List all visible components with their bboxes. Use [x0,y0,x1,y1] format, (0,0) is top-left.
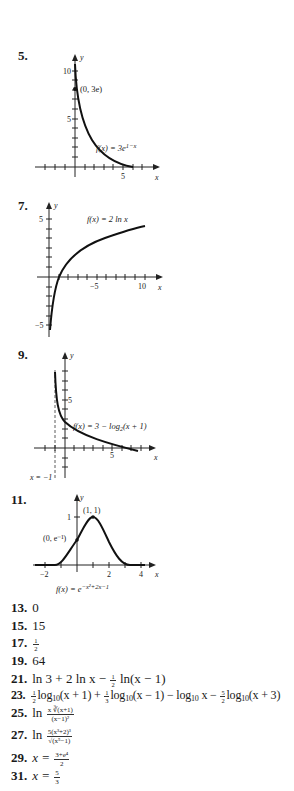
answer-number: 23. [11,688,25,702]
answer-text: ln 3 + 2 ln x − [32,671,109,686]
x-tick-label: 2 [107,570,111,579]
fraction: x ∛(x+1)(x−1)² [47,706,74,723]
answer-25: 25.ln x ∛(x+1)(x−1)² [11,705,75,723]
x-axis-label: x [157,283,162,292]
fraction: 5(x³+2)³√(x⁵−1) [47,728,72,745]
y-tick-label: 5 [68,396,72,405]
y-tick-label: −5 [35,321,44,330]
function-label: f(x) = 3 − log2(x + 1) [73,421,147,432]
fraction: 12 [33,637,38,652]
x-tick-label: −5 [90,282,99,291]
answer-27: 27.ln 5(x³+2)³√(x⁵−1) [11,727,73,745]
graph-exponential-decay: 10 5 5 x y (0, 3e) f(x) = 3e1−x [30,52,165,182]
answer-number: 29. [11,750,27,765]
answer-text: x = [32,768,50,783]
answer-number: 31. [11,768,27,783]
x-tick-label: 5 [121,172,125,181]
x-axis-label: x [154,173,159,182]
graph-log-base-2: 5 5 x y x = −1 f(x) = 3 − log2(x + 1) [30,350,170,485]
answer-text: ln [32,705,42,720]
answer-number: 25. [11,705,27,720]
answer-23: 23.12log10(x + 1) + 13log10(x − 1) − log… [11,688,280,704]
y-axis-label: y [69,351,74,360]
y-axis-label: y [53,201,58,210]
fraction: 53 [54,769,60,786]
answer-text: ln(x − 1) [117,671,166,686]
point-label: (0, 3e) [80,84,102,94]
answer-21: 21.ln 3 + 2 ln x − 12 ln(x − 1) [11,671,166,688]
fraction: 12 [110,673,115,688]
fraction: 13 [104,689,109,704]
function-label: f(x) = e−x²+2x−1 [56,583,109,594]
y-tick-label: 5 [67,115,71,124]
graph-gaussian: 1 −2 2 4 x y (1, 1) (0, e⁻¹) f(x) = e−x²… [30,492,170,602]
answer-text: 0 [32,600,39,615]
answer-number: 15. [11,618,27,633]
answer-number: 13. [11,600,27,615]
answer-text: ln [32,727,42,742]
y-axis-label: y [79,493,84,502]
y-axis-label: y [79,53,84,62]
problem-number-9: 9. [18,347,28,363]
point-intercept-label: (0, e⁻¹) [43,534,67,543]
answer-number: 21. [11,671,27,686]
answer-number: 17. [11,635,27,650]
answer-15: 15.15 [11,618,45,634]
fraction: 52 [220,689,225,704]
x-tick-label: 5 [110,451,114,460]
point-max-label: (1, 1) [83,506,101,515]
x-axis-label: x [153,453,158,462]
answer-text: 15 [32,618,45,633]
answer-19: 19.64 [11,653,45,669]
answer-13: 13.0 [11,600,39,616]
problem-number-7: 7. [18,198,28,214]
function-label: f(x) = 3e1−x [96,142,136,153]
answer-31: 31.x = 53 [11,768,61,786]
y-tick-label: 5 [39,215,43,224]
y-tick-label: 1 [67,513,71,522]
answer-17: 17.12 [11,635,40,652]
problem-number-11: 11. [11,492,27,508]
answer-number: 27. [11,727,27,742]
x-tick-label: −2 [40,570,49,579]
x-tick-label: 10 [138,282,146,291]
problem-number-5: 5. [18,48,28,64]
answer-number: 19. [11,653,27,668]
fraction: 3+e⁴2 [54,751,69,768]
answer-text: x = [32,750,50,765]
function-label: f(x) = 2 ln x [87,214,128,224]
x-axis-label: x [154,570,159,579]
y-tick-label: 10 [63,67,71,76]
fraction: 12 [31,689,36,704]
x-tick-label: 4 [139,570,143,579]
answer-text: 64 [32,653,45,668]
asymptote-label: x = −1 [29,473,52,482]
graph-natural-log: 5 −5 −5 10 x y f(x) = 2 ln x [35,200,170,340]
answer-29: 29.x = 3+e⁴2 [11,750,70,768]
